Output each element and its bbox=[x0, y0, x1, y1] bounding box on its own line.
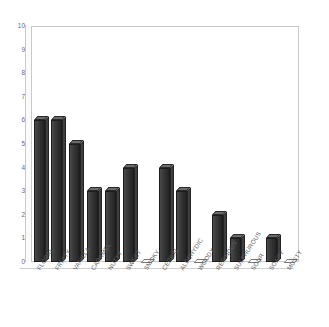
y-axis-tick-label: 3 bbox=[21, 188, 25, 195]
bar-front-face bbox=[51, 120, 62, 262]
y-axis-tick-label: 6 bbox=[21, 117, 25, 124]
y-axis-tick-label: 1 bbox=[21, 235, 25, 242]
bar-chart: 012345678910 FLORALFRUITYVANILLACARAMELN… bbox=[0, 0, 329, 327]
bars-container bbox=[31, 26, 299, 262]
x-axis: FLORALFRUITYVANILLACARAMELNUTTYSWEETSMOK… bbox=[31, 262, 329, 327]
y-axis-tick-label: 10 bbox=[18, 23, 25, 30]
bar-side-face bbox=[80, 140, 84, 262]
bar-front-face bbox=[34, 120, 45, 262]
bar-side-face bbox=[45, 117, 49, 262]
y-axis-tick-label: 2 bbox=[21, 212, 25, 219]
y-axis-tick-label: 4 bbox=[21, 165, 25, 172]
bar-front-face bbox=[69, 144, 80, 262]
bar-side-face bbox=[62, 117, 66, 262]
y-axis: 012345678910 bbox=[0, 0, 31, 327]
y-axis-tick-label: 8 bbox=[21, 70, 25, 77]
y-axis-tick-label: 0 bbox=[21, 259, 25, 266]
y-axis-tick-label: 9 bbox=[21, 47, 25, 54]
bar-front-face bbox=[159, 168, 170, 262]
y-axis-tick-label: 7 bbox=[21, 94, 25, 101]
bar-front-face bbox=[123, 168, 134, 262]
y-axis-tick-label: 5 bbox=[21, 141, 25, 148]
